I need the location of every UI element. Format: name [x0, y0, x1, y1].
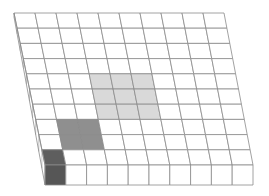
grid-cell: [206, 28, 230, 43]
grid-cell: [182, 119, 206, 134]
grid-cell: [60, 135, 84, 150]
grid-cell: [30, 89, 54, 104]
grid-cell: [74, 104, 98, 119]
front-face-cell: [107, 165, 128, 185]
grid-cell: [17, 28, 41, 43]
grid-cell: [14, 13, 38, 28]
grid-cell: [50, 89, 74, 104]
grid-cell: [42, 150, 66, 165]
front-face-cell: [128, 165, 149, 185]
grid-cell: [57, 119, 81, 134]
grid-cell: [182, 13, 206, 28]
front-face-cell: [149, 165, 170, 185]
grid-cell: [38, 28, 62, 43]
front-face-cell: [191, 165, 212, 185]
grid-cell: [20, 43, 44, 58]
front-face-cell: [211, 165, 232, 185]
grid-cell: [206, 135, 230, 150]
grid-cell: [140, 13, 164, 28]
grid-cell: [26, 74, 50, 89]
front-face-cell: [66, 165, 87, 185]
grid-cell: [71, 89, 95, 104]
grid-cell: [191, 59, 215, 74]
grid-cell: [197, 89, 221, 104]
grid-cell: [56, 13, 80, 28]
grid-cell: [161, 119, 185, 134]
grid-cell: [119, 13, 143, 28]
grid-cell: [36, 119, 60, 134]
grid-cell: [140, 119, 164, 134]
grid-cell: [200, 104, 224, 119]
grid-cell: [44, 59, 68, 74]
grid-cell: [101, 28, 125, 43]
grid-cell: [92, 89, 116, 104]
grid-cell: [68, 74, 92, 89]
grid-cell: [59, 28, 83, 43]
grid-cell: [146, 150, 170, 165]
grid-cell: [152, 74, 176, 89]
grid-cell: [33, 104, 57, 119]
grid-cell: [229, 150, 253, 165]
grid-cell: [209, 43, 233, 58]
grid-cell: [128, 59, 152, 74]
grid-cell: [107, 59, 131, 74]
grid-cell: [125, 43, 149, 58]
grid-cell: [77, 119, 101, 134]
grid-cell: [80, 135, 104, 150]
grid-cell: [65, 59, 89, 74]
grid-cell: [158, 104, 182, 119]
grid-cell: [84, 150, 108, 165]
grid-cell: [89, 74, 113, 89]
grid-cell: [161, 13, 185, 28]
front-face-cell: [232, 165, 253, 185]
grid-cell: [35, 13, 59, 28]
grid-cell: [179, 104, 203, 119]
grid-cell: [131, 74, 155, 89]
grid-cell: [194, 74, 218, 89]
grid-cell: [212, 59, 236, 74]
front-face-cell: [45, 165, 66, 185]
grid-cell: [164, 28, 188, 43]
grid-cell: [63, 150, 87, 165]
grid-cell: [23, 59, 47, 74]
grid-diagram: [0, 0, 269, 196]
grid-cell: [39, 135, 63, 150]
grid-cell: [226, 135, 250, 150]
grid-cell: [122, 28, 146, 43]
grid-cell: [137, 104, 161, 119]
grid-cell: [119, 119, 143, 134]
grid-cell: [143, 28, 167, 43]
grid-cell: [95, 104, 119, 119]
grid-cell: [77, 13, 101, 28]
grid-cell: [113, 89, 137, 104]
grid-cell: [134, 89, 158, 104]
front-face-cell: [170, 165, 191, 185]
grid-cell: [176, 89, 200, 104]
grid-cell: [41, 43, 65, 58]
grid-cell: [53, 104, 77, 119]
grid-cell: [167, 150, 191, 165]
grid-cell: [203, 13, 227, 28]
grid-cell: [149, 59, 173, 74]
grid-cell: [62, 43, 86, 58]
grid-cell: [218, 89, 242, 104]
front-face-cell: [87, 165, 108, 185]
grid-cell: [101, 135, 125, 150]
grid-cell: [122, 135, 146, 150]
grid-cell: [203, 119, 227, 134]
grid-cell: [116, 104, 140, 119]
grid-cell: [83, 43, 107, 58]
grid-cell: [143, 135, 167, 150]
grid-cell: [173, 74, 197, 89]
grid-cell: [47, 74, 71, 89]
grid-cell: [104, 150, 128, 165]
grid-cell: [104, 43, 128, 58]
grid-cell: [215, 74, 239, 89]
grid-cell: [125, 150, 149, 165]
grid-cell: [110, 74, 134, 89]
grid-cell: [146, 43, 170, 58]
grid-cell: [188, 43, 212, 58]
grid-cell: [155, 89, 179, 104]
grid-cell: [164, 135, 188, 150]
grid-cell: [98, 119, 122, 134]
